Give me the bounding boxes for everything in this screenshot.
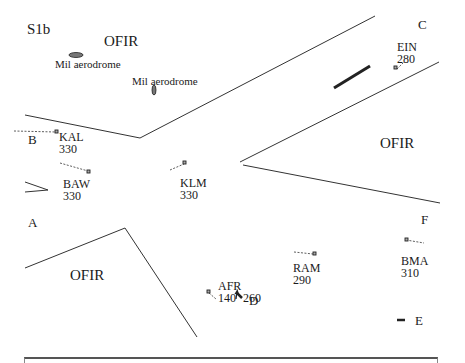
flight-level: 140 — [218, 291, 236, 305]
flight-level: 330 — [180, 189, 207, 201]
point-label-b: B — [28, 133, 37, 146]
kal-position-icon[interactable] — [55, 130, 58, 133]
restricted-segment — [334, 66, 370, 88]
figure-label: S1b — [27, 22, 50, 37]
bma-position-icon[interactable] — [405, 238, 408, 241]
panel-frame-edge — [24, 357, 438, 363]
region-label-ofir-north: OFIR — [104, 34, 138, 49]
aircraft-label-ram[interactable]: RAM 290 — [293, 262, 320, 286]
point-label-c: C — [418, 18, 427, 31]
boundary-lower — [25, 228, 197, 337]
klm-trail — [170, 164, 184, 170]
ein-position-icon[interactable] — [394, 66, 397, 69]
region-label-ofir-southwest: OFIR — [70, 268, 104, 283]
klm-position-icon[interactable] — [183, 161, 186, 164]
baw-position-icon[interactable] — [87, 170, 90, 173]
aerodrome-label-west: Mil aerodrome — [55, 59, 121, 70]
boundary-upper — [25, 16, 375, 138]
ram-trail — [294, 252, 313, 254]
aircraft-label-ein[interactable]: EIN 280 — [397, 41, 417, 65]
point-label-f: F — [421, 213, 428, 226]
aircraft-label-kal[interactable]: KAL 330 — [59, 131, 84, 155]
flight-level: 290 — [293, 274, 320, 286]
aerodrome-label-central: Mil aerodrome — [132, 76, 198, 87]
point-label-e: E — [415, 314, 423, 327]
aircraft-label-baw[interactable]: BAW 330 — [63, 178, 90, 202]
point-label-a: A — [28, 216, 37, 229]
ram-position-icon[interactable] — [313, 252, 316, 255]
bma-trail — [406, 240, 424, 243]
flight-level: 310 — [401, 267, 428, 279]
afr-trail — [209, 293, 216, 299]
boundary-right-lower — [243, 165, 440, 203]
aircraft-label-bma[interactable]: BMA 310 — [401, 255, 428, 279]
flight-level: 280 — [397, 53, 417, 65]
cleared-level: 260 — [243, 292, 261, 304]
region-label-ofir-east: OFIR — [380, 136, 414, 151]
aircraft-label-afr[interactable]: AFR 140 260 — [218, 280, 241, 304]
aircraft-label-klm[interactable]: KLM 330 — [180, 177, 207, 201]
afr-position-icon[interactable] — [207, 290, 210, 293]
flight-level: 330 — [63, 190, 90, 202]
boundary-left-notch — [25, 182, 48, 192]
baw-trail — [60, 163, 88, 171]
aerodrome-icon — [69, 53, 83, 58]
flight-level: 330 — [59, 143, 84, 155]
